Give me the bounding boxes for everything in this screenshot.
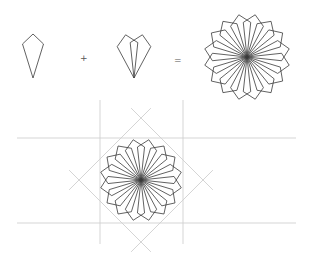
single-kite-shape xyxy=(23,34,44,78)
kite-right xyxy=(130,35,151,78)
plus-sign: + xyxy=(80,53,88,63)
equals-sign: = xyxy=(174,55,182,65)
construction-guides xyxy=(17,100,296,252)
kite-pair-shape xyxy=(117,35,151,78)
construction-diagram: + = xyxy=(0,0,315,262)
kite xyxy=(23,34,44,78)
kite-left xyxy=(117,35,138,78)
rosette-in-construction xyxy=(101,140,182,221)
rosette-result xyxy=(205,15,289,99)
